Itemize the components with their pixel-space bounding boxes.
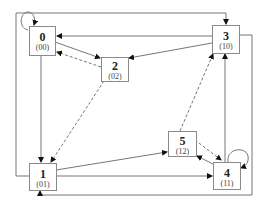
node-id: 1 <box>30 168 56 180</box>
node-id: 5 <box>169 135 196 147</box>
node-id: 0 <box>30 31 55 43</box>
node-code: (01) <box>30 180 56 189</box>
edge-2-to-1-dashed <box>51 81 104 162</box>
edge-5-to-3-dashed <box>180 54 213 131</box>
node-id: 2 <box>102 60 128 72</box>
state-node-4: 4 (11) <box>213 162 241 190</box>
edge-4-to-5 <box>197 156 213 164</box>
state-node-2: 2 (02) <box>101 57 129 82</box>
node-id: 3 <box>213 30 239 42</box>
state-node-0: 0 (00) <box>29 26 56 56</box>
node-id: 4 <box>214 167 240 179</box>
node-code: (02) <box>102 72 128 81</box>
node-code: (10) <box>213 42 239 51</box>
state-node-1: 1 (01) <box>29 163 57 191</box>
node-code: (12) <box>169 147 196 156</box>
edge-2-to-0-dashed <box>57 52 101 67</box>
state-node-5: 5 (12) <box>168 131 197 157</box>
edge-3-to-2 <box>129 43 212 58</box>
edge-1-to-5 <box>56 152 167 170</box>
node-code: (00) <box>30 43 55 52</box>
node-code: (11) <box>214 179 240 188</box>
state-node-3: 3 (10) <box>212 25 240 54</box>
edge-0-to-2 <box>55 42 100 58</box>
